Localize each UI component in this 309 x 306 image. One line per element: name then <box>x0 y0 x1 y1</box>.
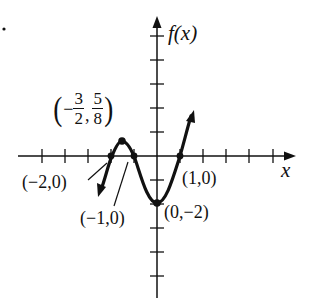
y-axis <box>150 16 164 298</box>
point-0-neg2 <box>153 199 161 207</box>
curve-left-arrow-icon <box>97 183 106 197</box>
x-axis-label: x <box>281 160 290 181</box>
point-neg2-0 <box>108 153 115 160</box>
point-max <box>118 137 126 145</box>
curve-f <box>101 116 191 203</box>
point-label-1-0: (1,0) <box>182 169 217 187</box>
function-graph <box>0 0 309 306</box>
point-label-neg1-0: (−1,0) <box>80 209 125 227</box>
point-1-0 <box>177 153 184 160</box>
point-label-neg2-0: (−2,0) <box>22 173 67 191</box>
point-neg1-0 <box>131 153 138 160</box>
curve-right-arrow-icon <box>186 110 195 123</box>
key-points <box>108 137 184 207</box>
stray-dot <box>2 27 5 30</box>
y-axis-label: f(x) <box>168 23 197 44</box>
max-point-label: (−32,58) <box>52 90 114 127</box>
y-axis-arrow-icon <box>153 16 162 28</box>
point-label-0-neg2: (0,−2) <box>164 203 209 221</box>
